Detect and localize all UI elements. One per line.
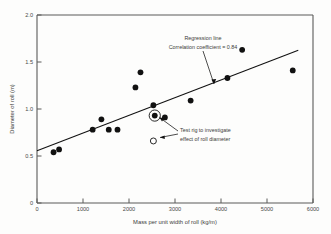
y-axis-ticks: 0 0.5 1.0 1.5 2.0 xyxy=(25,12,41,206)
x-tick-label-4: 4000 xyxy=(215,206,227,212)
y-tick-label-4: 2.0 xyxy=(25,12,33,18)
x-tick-label-2: 2000 xyxy=(123,206,135,212)
data-point xyxy=(188,98,194,104)
test-rig-annotation-line-2: effect of roll diameter xyxy=(180,136,230,142)
x-tick-label-3: 3000 xyxy=(169,206,181,212)
data-point xyxy=(239,47,245,53)
data-point xyxy=(152,113,158,119)
data-points-layer xyxy=(51,47,296,155)
data-point xyxy=(133,84,139,90)
data-point xyxy=(90,127,96,133)
x-axis-title: Mass per unit width of roll (kg/m) xyxy=(133,219,217,225)
data-point xyxy=(99,116,105,122)
data-point xyxy=(150,102,156,108)
x-axis-ticks: 0 1000 2000 3000 4000 5000 6000 xyxy=(35,199,319,213)
chart-canvas: 0 0.5 1.0 1.5 2.0 0 1000 2000 3000 4000 … xyxy=(0,0,331,234)
test-rig-leader-arrowhead-lower xyxy=(160,136,165,140)
data-point xyxy=(115,127,121,133)
y-tick-label-2: 1.0 xyxy=(25,106,33,112)
data-point xyxy=(290,68,296,74)
x-tick-label-1: 1000 xyxy=(77,206,89,212)
test-rig-annotation: Test rig to investigate effect of roll d… xyxy=(160,118,231,142)
y-tick-label-0: 0 xyxy=(30,200,33,206)
scatter-chart-figure: 0 0.5 1.0 1.5 2.0 0 1000 2000 3000 4000 … xyxy=(0,0,331,234)
y-axis-title: Diameter of roll (m) xyxy=(9,84,15,134)
regression-leader-line xyxy=(203,51,214,84)
data-point xyxy=(106,127,112,133)
x-tick-label-0: 0 xyxy=(35,206,38,212)
data-point xyxy=(51,149,57,155)
x-tick-label-6: 6000 xyxy=(307,206,319,212)
regression-annotation-line-1: Regression line xyxy=(184,35,221,41)
test-rig-annotation-line-1: Test rig to investigate xyxy=(180,127,231,133)
data-point xyxy=(138,69,144,75)
y-tick-label-3: 1.5 xyxy=(25,59,33,65)
y-tick-label-1: 0.5 xyxy=(25,153,33,159)
data-point xyxy=(56,147,62,153)
regression-annotation-line-2: Correlation coefficient = 0.84 xyxy=(169,44,238,50)
x-tick-label-5: 5000 xyxy=(261,206,273,212)
data-point xyxy=(225,75,231,81)
data-point-open xyxy=(150,138,156,144)
